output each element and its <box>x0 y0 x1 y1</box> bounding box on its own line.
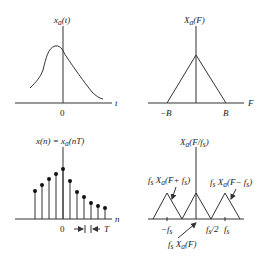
sample-origin-label: 0 <box>60 224 65 234</box>
sample-dot <box>82 195 86 199</box>
origin-label: 0 <box>60 108 65 118</box>
panel-sampled-spectrum: Xa(F/fs) fs Xa(F+ fs) fs Xa(F− fs) fs Xa… <box>148 137 252 251</box>
analog-waveform <box>30 46 103 99</box>
sample-dot <box>68 179 72 183</box>
sample-dot <box>40 183 44 187</box>
tick-neg-fs: −fs <box>161 224 173 236</box>
tick-fs: fs <box>224 224 230 236</box>
sample-stems <box>33 167 107 219</box>
sample-dot <box>54 172 58 176</box>
panel-sampled-signal: x(n) = xa(nT) n 0 T <box>15 136 120 234</box>
period-label: T <box>104 224 110 234</box>
annot-right: fs Xa(F− fs) <box>210 177 252 189</box>
sample-dot <box>33 189 37 193</box>
panel-analog-signal: xa(t) t 0 <box>15 15 118 118</box>
sampled-title: x(n) = xa(nT) <box>35 136 84 148</box>
sample-dot <box>75 190 79 194</box>
n-axis-label: n <box>115 214 120 224</box>
annot-left-arrow <box>172 187 176 199</box>
sample-dot <box>96 204 100 208</box>
sampling-diagram: xa(t) t 0 Xa(F) F −B B x(n) = xa(nT) n 0… <box>0 0 267 260</box>
tick-minus-b: −B <box>160 108 172 118</box>
replica-right <box>211 193 240 219</box>
tick-b: B <box>223 108 229 118</box>
t-axis-label: t <box>115 98 118 108</box>
tick-fs-half: fs/2 <box>206 224 219 236</box>
replica-left <box>153 193 182 219</box>
sample-dot <box>89 201 93 205</box>
sample-dot <box>103 206 107 210</box>
sampled-spectrum-title: Xa(F/fs) <box>179 137 209 149</box>
signal-title: xa(t) <box>53 15 70 27</box>
spectrum-title: Xa(F) <box>183 15 205 27</box>
sample-dot <box>47 177 51 181</box>
f-axis-label: F <box>247 98 254 108</box>
sample-dot <box>61 167 65 171</box>
panel-analog-spectrum: Xa(F) F −B B <box>148 15 254 118</box>
annot-center-arrow <box>178 223 196 238</box>
annot-center: fs Xa(F) <box>168 239 196 251</box>
annot-right-arrow <box>231 189 236 199</box>
annot-left: fs Xa(F+ fs) <box>148 175 190 187</box>
